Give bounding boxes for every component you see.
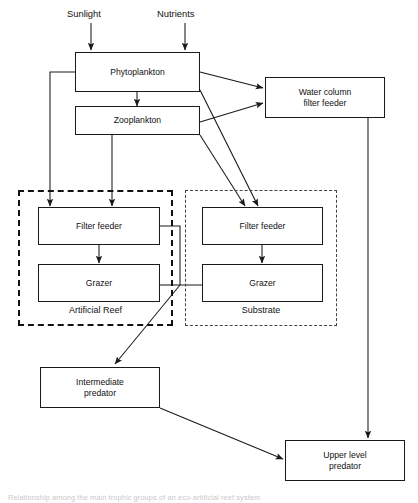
input-label-sunlight: Sunlight (67, 8, 101, 19)
node-label-substrate-filter-feeder: Filter feeder (240, 221, 286, 231)
node-label-intermediate-predator-line2: predator (76, 388, 124, 398)
node-label-intermediate-predator-line1: Intermediate (76, 377, 124, 387)
node-label-reef-grazer: Grazer (86, 278, 112, 288)
node-reef-grazer[interactable]: Grazer (38, 264, 160, 302)
node-label-upper-level-predator-line2: predator (323, 461, 366, 471)
connector-intermediate-predator-to-upper-level-predator (160, 408, 283, 459)
node-reef-filter-feeder[interactable]: Filter feeder (38, 207, 160, 245)
group-label-artificial-reef: Artificial Reef (18, 305, 173, 315)
input-label-nutrients: Nutrients (157, 8, 195, 19)
node-substrate-filter-feeder[interactable]: Filter feeder (202, 207, 323, 245)
connector-phytoplankton-to-reef-filter-feeder (50, 72, 75, 206)
node-label-reef-filter-feeder: Filter feeder (76, 221, 122, 231)
node-label-upper-level-predator-line1: Upper level (323, 450, 366, 460)
node-phytoplankton[interactable]: Phytoplankton (75, 52, 200, 92)
node-zooplankton[interactable]: Zooplankton (75, 106, 200, 135)
node-water-column-filter-feeder[interactable]: Water column filter feeder (265, 77, 385, 118)
node-label-substrate-grazer: Grazer (249, 278, 275, 288)
group-label-substrate: Substrate (185, 305, 337, 315)
figure-caption: Relationship among the main trophic grou… (8, 493, 412, 502)
node-label-water-column-line1: Water column (299, 87, 352, 97)
node-intermediate-predator[interactable]: Intermediate predator (40, 367, 160, 408)
node-upper-level-predator[interactable]: Upper level predator (285, 440, 405, 481)
node-label-phytoplankton: Phytoplankton (110, 67, 164, 77)
connector-phytoplankton-to-water-column (200, 72, 263, 88)
connector-zooplankton-to-water-column (200, 103, 263, 122)
node-label-zooplankton: Zooplankton (114, 115, 161, 125)
node-substrate-grazer[interactable]: Grazer (202, 264, 323, 302)
node-label-water-column-line2: filter feeder (299, 98, 352, 108)
trophic-flow-diagram: Sunlight Nutrients Artificial Reef Subst… (0, 0, 418, 503)
